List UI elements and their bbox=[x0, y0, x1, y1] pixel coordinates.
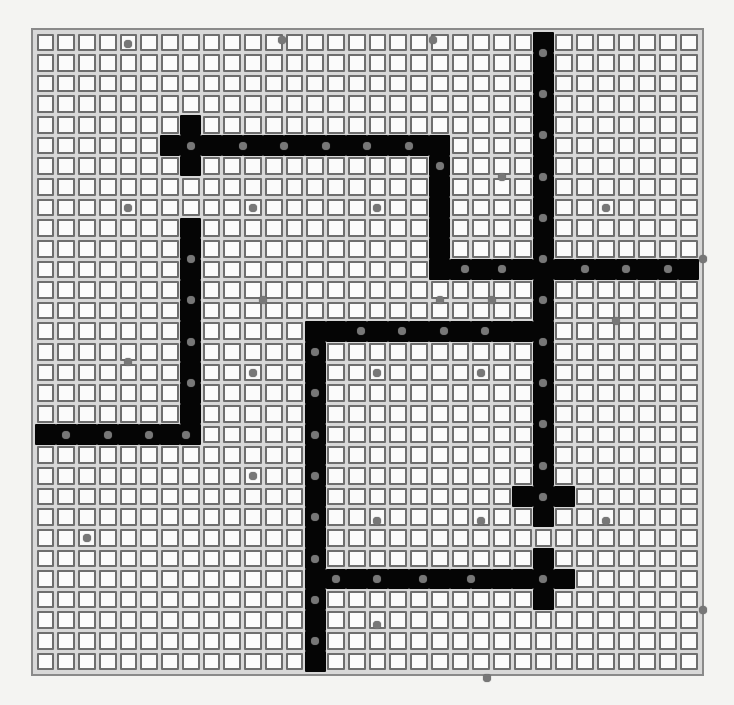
grid-cell bbox=[37, 75, 55, 93]
filled-cell bbox=[554, 486, 575, 507]
grid-cell bbox=[161, 157, 179, 175]
marker-dot-icon bbox=[477, 369, 485, 377]
grid-cell bbox=[57, 508, 75, 526]
grid-cell bbox=[99, 591, 117, 609]
grid-cell bbox=[244, 322, 262, 340]
grid-cell bbox=[493, 508, 511, 526]
grid-cell bbox=[680, 199, 698, 217]
grid-cell bbox=[78, 653, 96, 671]
grid-cell bbox=[203, 591, 221, 609]
maze-board bbox=[31, 28, 704, 676]
grid-cell bbox=[472, 302, 490, 320]
grid-cell bbox=[348, 34, 366, 52]
grid-cell bbox=[410, 199, 428, 217]
grid-cell bbox=[389, 219, 407, 237]
grid-cell bbox=[120, 116, 138, 134]
marker-dot-icon bbox=[239, 142, 247, 150]
grid-cell bbox=[493, 405, 511, 423]
grid-cell bbox=[244, 281, 262, 299]
grid-cell bbox=[99, 116, 117, 134]
grid-cell bbox=[597, 219, 615, 237]
grid-cell bbox=[452, 550, 470, 568]
grid-cell bbox=[120, 75, 138, 93]
grid-cell bbox=[597, 467, 615, 485]
grid-cell bbox=[410, 405, 428, 423]
grid-cell bbox=[638, 653, 656, 671]
grid-cell bbox=[680, 137, 698, 155]
grid-cell bbox=[140, 302, 158, 320]
grid-cell bbox=[57, 467, 75, 485]
grid-cell bbox=[431, 529, 449, 547]
grid-cell bbox=[327, 178, 345, 196]
grid-cell bbox=[348, 219, 366, 237]
filled-cell bbox=[429, 197, 450, 218]
grid-cell bbox=[223, 34, 241, 52]
grid-cell bbox=[140, 446, 158, 464]
cell-grid bbox=[35, 32, 699, 672]
grid-cell bbox=[431, 446, 449, 464]
grid-cell bbox=[410, 54, 428, 72]
grid-cell bbox=[37, 116, 55, 134]
grid-cell bbox=[555, 219, 573, 237]
grid-cell bbox=[223, 529, 241, 547]
grid-cell bbox=[99, 364, 117, 382]
grid-cell bbox=[514, 446, 532, 464]
grid-cell bbox=[618, 302, 636, 320]
grid-cell bbox=[161, 75, 179, 93]
grid-cell bbox=[161, 34, 179, 52]
grid-cell bbox=[286, 405, 304, 423]
grid-cell bbox=[597, 550, 615, 568]
grid-cell bbox=[78, 95, 96, 113]
grid-cell bbox=[452, 446, 470, 464]
grid-cell bbox=[659, 116, 677, 134]
grid-cell bbox=[244, 157, 262, 175]
grid-cell bbox=[431, 95, 449, 113]
grid-cell bbox=[182, 508, 200, 526]
grid-cell bbox=[265, 426, 283, 444]
grid-cell bbox=[472, 137, 490, 155]
grid-cell bbox=[555, 611, 573, 629]
filled-cell bbox=[429, 569, 450, 590]
grid-cell bbox=[244, 550, 262, 568]
grid-cell bbox=[369, 446, 387, 464]
grid-cell bbox=[78, 467, 96, 485]
grid-cell bbox=[618, 75, 636, 93]
grid-cell bbox=[244, 426, 262, 444]
grid-cell bbox=[431, 508, 449, 526]
grid-cell bbox=[659, 467, 677, 485]
filled-cell bbox=[118, 424, 139, 445]
grid-cell bbox=[244, 178, 262, 196]
grid-cell bbox=[99, 157, 117, 175]
grid-cell bbox=[140, 653, 158, 671]
grid-cell bbox=[265, 281, 283, 299]
grid-cell bbox=[472, 157, 490, 175]
grid-cell bbox=[244, 653, 262, 671]
grid-cell bbox=[203, 240, 221, 258]
grid-cell bbox=[327, 611, 345, 629]
grid-cell bbox=[597, 137, 615, 155]
grid-cell bbox=[223, 302, 241, 320]
grid-cell bbox=[597, 570, 615, 588]
grid-cell bbox=[286, 302, 304, 320]
grid-cell bbox=[203, 95, 221, 113]
grid-cell bbox=[659, 34, 677, 52]
grid-cell bbox=[638, 240, 656, 258]
marker-dot-icon bbox=[322, 142, 330, 150]
grid-cell bbox=[431, 116, 449, 134]
grid-cell bbox=[576, 322, 594, 340]
grid-cell bbox=[576, 488, 594, 506]
grid-cell bbox=[286, 529, 304, 547]
grid-cell bbox=[638, 137, 656, 155]
grid-cell bbox=[223, 426, 241, 444]
grid-cell bbox=[182, 611, 200, 629]
grid-cell bbox=[452, 467, 470, 485]
grid-cell bbox=[223, 322, 241, 340]
grid-cell bbox=[452, 611, 470, 629]
grid-cell bbox=[99, 95, 117, 113]
grid-cell bbox=[618, 384, 636, 402]
grid-cell bbox=[286, 178, 304, 196]
grid-cell bbox=[286, 54, 304, 72]
grid-cell bbox=[99, 199, 117, 217]
filled-cell bbox=[471, 259, 492, 280]
marker-dot-icon bbox=[124, 204, 132, 212]
